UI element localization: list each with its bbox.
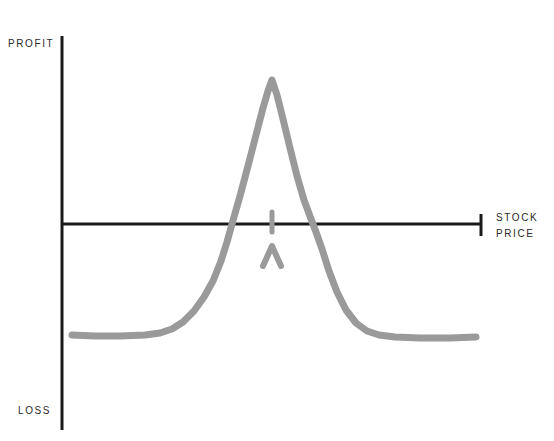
data-series-group — [72, 80, 476, 338]
option-payoff-chart: PROFIT LOSS STOCKPRICE — [0, 0, 554, 441]
x-axis-end-label-line2: PRICE — [496, 228, 535, 239]
strike-caret-icon — [263, 246, 281, 266]
x-axis-end-label: STOCKPRICE — [496, 210, 538, 242]
y-axis-bottom-label: LOSS — [18, 403, 51, 419]
annotation-group — [263, 212, 281, 266]
y-axis-top-label: PROFIT — [8, 36, 54, 52]
payoff-curve — [72, 80, 476, 338]
chart-plot-area — [0, 0, 554, 441]
x-axis-end-label-line1: STOCK — [496, 212, 538, 223]
